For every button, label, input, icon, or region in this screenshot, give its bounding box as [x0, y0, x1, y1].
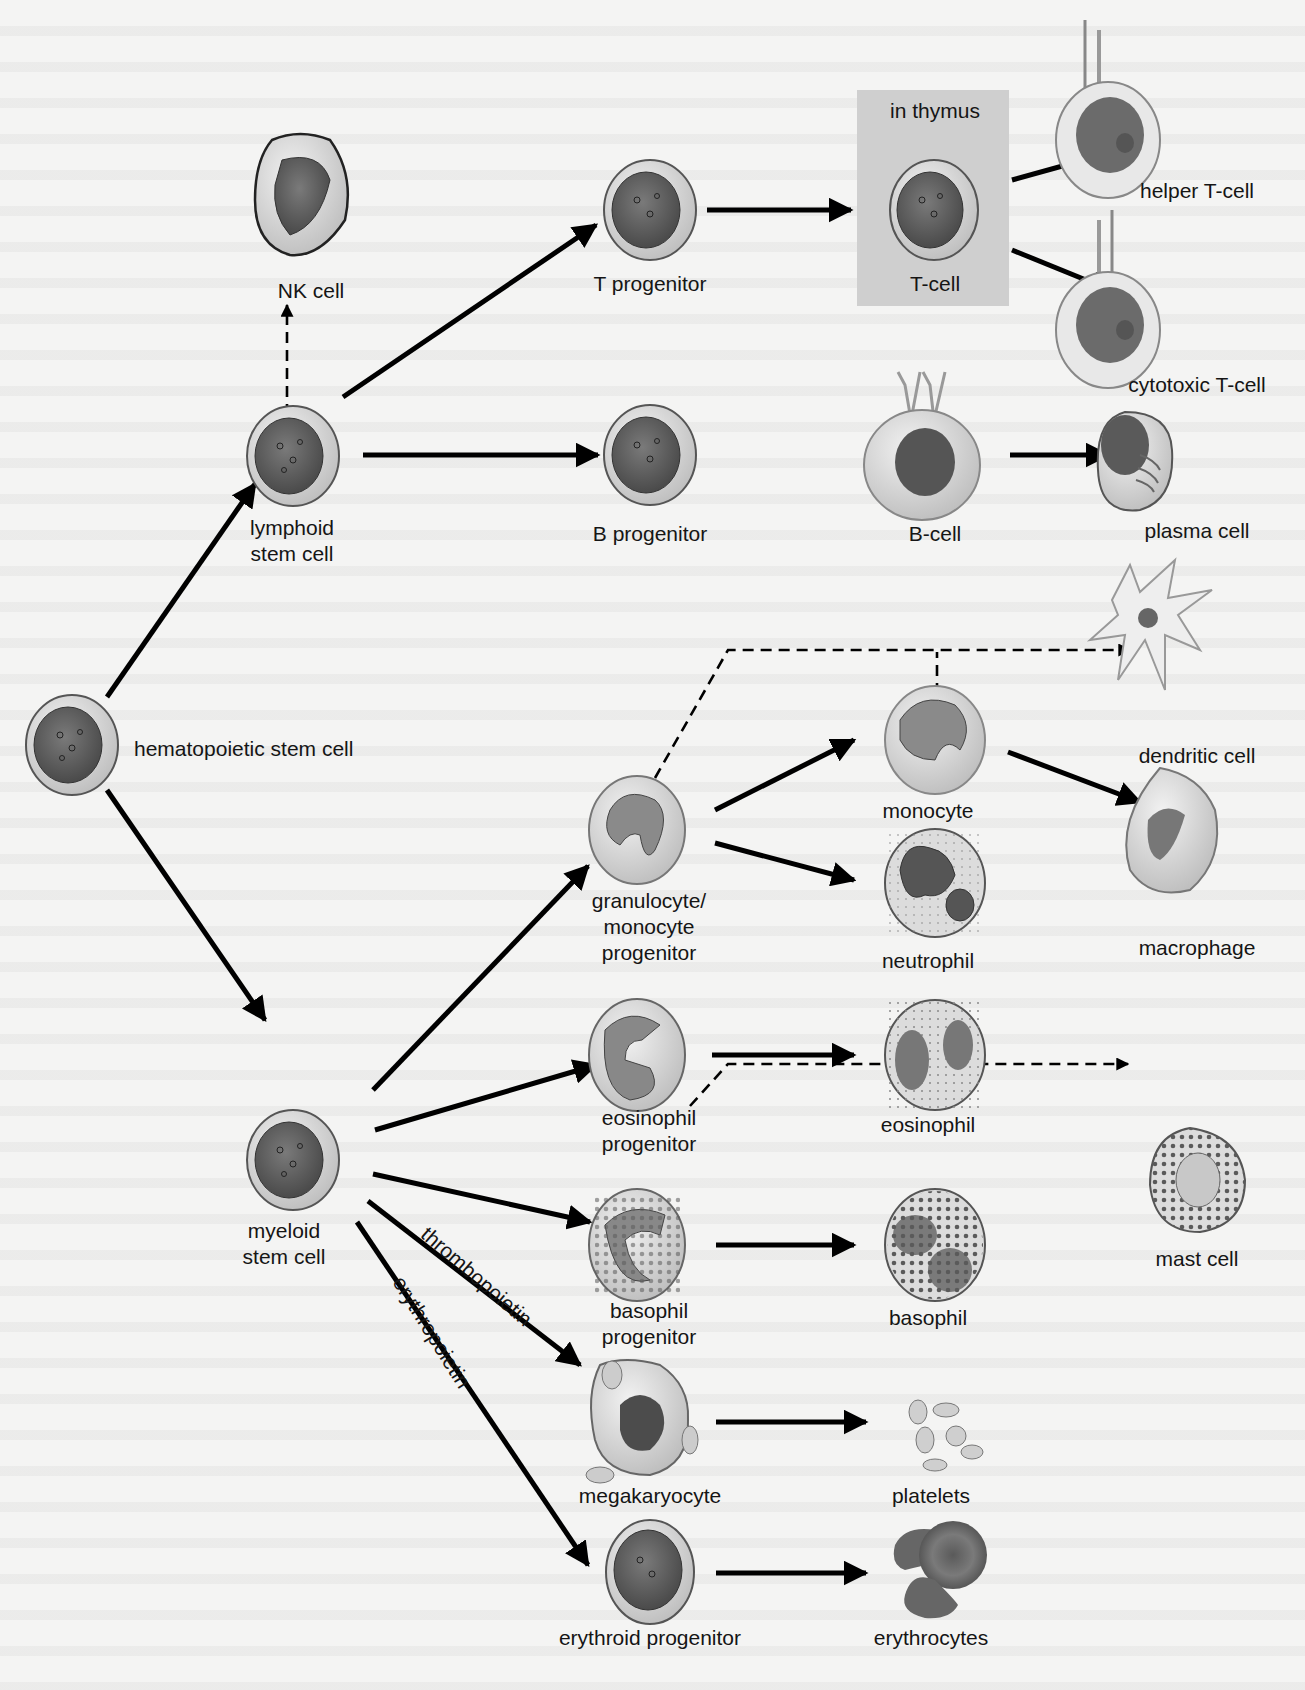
basophil-cell — [885, 1189, 985, 1301]
megakaryocyte-cell — [586, 1360, 698, 1483]
plasma-cell — [1098, 412, 1173, 511]
hsc-cell — [26, 695, 118, 795]
eosinophil-progenitor-cell — [589, 999, 685, 1111]
macrophage-cell — [1126, 768, 1217, 893]
label-dendritic-cell: dendritic cell — [1139, 743, 1256, 769]
eosinophil-cell — [885, 1000, 985, 1110]
label-erythrocytes: erythrocytes — [874, 1625, 988, 1651]
label-megakaryocyte: megakaryocyte — [579, 1483, 721, 1509]
label-myeloid-stem-cell-1: myeloid — [248, 1218, 320, 1244]
label-lymphoid-stem-cell-2: stem cell — [251, 541, 334, 567]
label-lymphoid-stem-cell-1: lymphoid — [250, 515, 334, 541]
platelets — [909, 1400, 983, 1471]
erythroid-progenitor-cell — [606, 1520, 694, 1624]
basophil-progenitor-cell — [589, 1189, 685, 1301]
label-nk-cell: NK cell — [278, 278, 345, 304]
label-basophil-progenitor-1: basophil — [610, 1298, 688, 1324]
label-cytotoxic-t-cell: cytotoxic T-cell — [1128, 372, 1265, 398]
label-t-cell: T-cell — [910, 271, 960, 297]
label-b-cell: B-cell — [909, 521, 962, 547]
label-b-progenitor: B progenitor — [593, 521, 707, 547]
label-myeloid-stem-cell-2: stem cell — [243, 1244, 326, 1270]
label-mast-cell: mast cell — [1156, 1246, 1239, 1272]
label-eosinophil-progenitor-2: progenitor — [602, 1131, 697, 1157]
label-erythroid-progenitor: erythroid progenitor — [559, 1625, 741, 1651]
label-monocyte: monocyte — [882, 798, 973, 824]
label-helper-t-cell: helper T-cell — [1140, 178, 1254, 204]
label-plasma-cell: plasma cell — [1144, 518, 1249, 544]
label-gm-progenitor-3: progenitor — [602, 940, 697, 966]
lymphoid-stem-cell — [247, 406, 339, 506]
label-neutrophil: neutrophil — [882, 948, 974, 974]
thymus-label: in thymus — [890, 98, 980, 124]
b-progenitor-cell — [604, 405, 696, 505]
diagram-canvas — [0, 0, 1305, 1690]
label-basophil: basophil — [889, 1305, 967, 1331]
myeloid-stem-cell — [247, 1110, 339, 1210]
dendritic-cell — [1090, 560, 1212, 690]
monocyte-cell — [885, 686, 985, 794]
label-hematopoietic-stem-cell: hematopoietic stem cell — [134, 736, 353, 762]
label-eosinophil: eosinophil — [881, 1112, 976, 1138]
label-platelets: platelets — [892, 1483, 970, 1509]
label-gm-progenitor-2: monocyte — [603, 914, 694, 940]
t-progenitor-cell — [604, 160, 696, 260]
erythrocytes — [894, 1521, 987, 1618]
nk-cell — [255, 134, 348, 255]
helper-t-cell — [1056, 20, 1160, 198]
b-cell — [864, 372, 980, 520]
label-macrophage: macrophage — [1139, 935, 1256, 961]
gm-progenitor-cell — [589, 776, 685, 884]
t-cell — [890, 160, 978, 260]
label-basophil-progenitor-2: progenitor — [602, 1324, 697, 1350]
label-gm-progenitor-1: granulocyte/ — [592, 888, 706, 914]
cytotoxic-t-cell — [1056, 210, 1160, 388]
label-t-progenitor: T progenitor — [594, 271, 707, 297]
dashed-arrows — [287, 305, 1130, 1106]
mast-cell — [1150, 1128, 1245, 1232]
label-eosinophil-progenitor-1: eosinophil — [602, 1105, 697, 1131]
neutrophil-cell — [885, 829, 985, 937]
